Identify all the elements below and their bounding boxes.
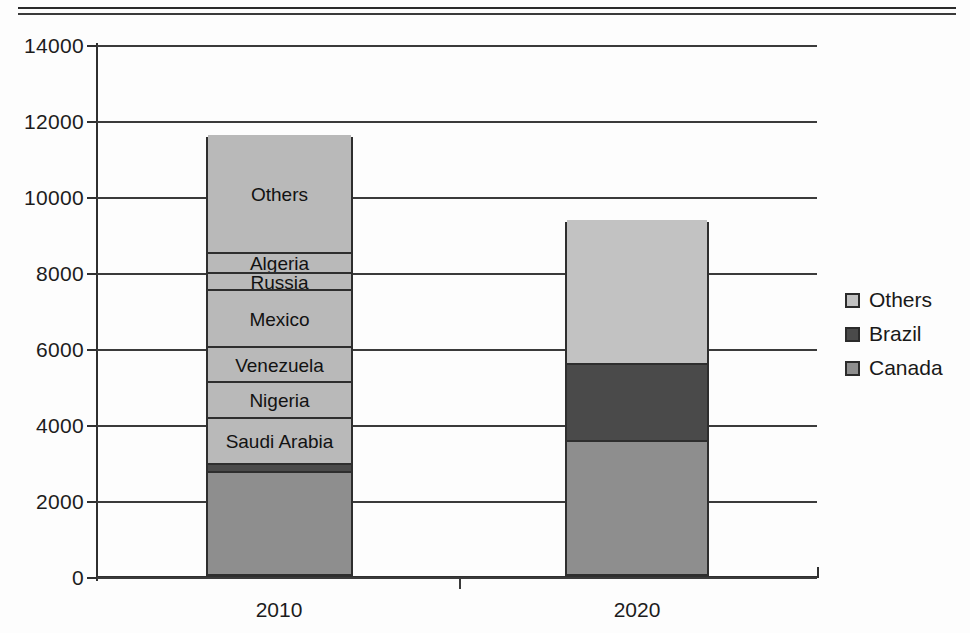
y-axis-tick [87, 197, 97, 199]
stacked-bar[interactable] [565, 222, 709, 576]
bar-segment-label: Venezuela [235, 356, 324, 375]
chart-legend: OthersBrazilCanada [845, 283, 965, 385]
y-axis-tick [87, 349, 97, 351]
bar-segment[interactable]: Saudi Arabia [208, 419, 351, 465]
bar-segment-divider [208, 289, 351, 291]
stacked-bar[interactable]: Saudi ArabiaNigeriaVenezuelaMexicoRussia… [206, 137, 353, 576]
y-tick-label: 0 [0, 566, 84, 590]
legend-swatch-icon [845, 361, 860, 376]
bar-segment[interactable]: Venezuela [208, 348, 351, 383]
bar-segment[interactable] [567, 220, 707, 366]
bar-segment-divider [208, 463, 351, 465]
bar-segment-label: Others [251, 185, 308, 204]
y-tick-label: 14000 [0, 34, 84, 58]
bar-segment-divider [567, 440, 707, 442]
y-axis-tick [87, 45, 97, 47]
legend-item[interactable]: Others [845, 283, 965, 317]
y-tick-label: 12000 [0, 110, 84, 134]
bar-segment-divider [208, 272, 351, 274]
chart-figure: 02000400060008000100001200014000 Saudi A… [0, 0, 970, 633]
legend-item[interactable]: Brazil [845, 317, 965, 351]
gridline [96, 197, 817, 199]
x-tick-label: 2010 [199, 598, 359, 622]
bar-segment-divider [208, 471, 351, 473]
top-rule-upper [18, 7, 956, 9]
y-tick-label: 4000 [0, 414, 84, 438]
legend-label: Others [869, 288, 932, 312]
bar-segment[interactable]: Mexico [208, 291, 351, 348]
legend-label: Brazil [869, 322, 922, 346]
plot-area: 02000400060008000100001200014000 Saudi A… [96, 46, 817, 578]
y-tick-label: 8000 [0, 262, 84, 286]
bar-segment[interactable] [567, 365, 707, 442]
bar-segment-label: Saudi Arabia [226, 432, 334, 451]
x-axis-right-cap [817, 567, 819, 578]
x-axis-minor-tick [459, 578, 461, 589]
x-tick-label: 2020 [557, 598, 717, 622]
bar-segment-divider [208, 252, 351, 254]
bar-segment[interactable]: Nigeria [208, 383, 351, 419]
gridline [96, 45, 817, 47]
top-rule-lower [18, 13, 956, 15]
legend-item[interactable]: Canada [845, 351, 965, 385]
bar-segment-divider [567, 363, 707, 365]
y-axis-tick [87, 121, 97, 123]
y-axis-tick [87, 425, 97, 427]
legend-label: Canada [869, 356, 943, 380]
bar-segment-label: Mexico [249, 310, 309, 329]
bar-segment-label: Nigeria [249, 391, 309, 410]
bar-segment-divider [208, 417, 351, 419]
legend-swatch-icon [845, 327, 860, 342]
bar-segment-divider [208, 381, 351, 383]
y-tick-label: 10000 [0, 186, 84, 210]
bar-segment[interactable] [208, 473, 351, 574]
y-axis-tick [87, 577, 97, 579]
legend-swatch-icon [845, 293, 860, 308]
bar-segment[interactable]: Others [208, 135, 351, 254]
gridline [96, 121, 817, 123]
bar-segment-divider [208, 346, 351, 348]
y-tick-label: 6000 [0, 338, 84, 362]
bar-segment[interactable] [567, 442, 707, 574]
y-tick-label: 2000 [0, 490, 84, 514]
y-axis-tick [87, 501, 97, 503]
gridline [96, 577, 817, 579]
y-axis-tick [87, 273, 97, 275]
bar-segment-label: Algeria [250, 254, 309, 273]
